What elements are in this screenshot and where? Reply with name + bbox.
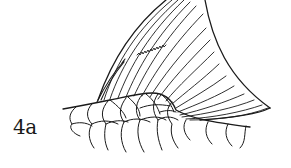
fin-rays (104, 0, 268, 120)
figure-label: 4a (13, 115, 37, 139)
serrated-spine (137, 45, 166, 55)
fin-illustration (0, 0, 291, 168)
fin-drawing (0, 0, 291, 168)
